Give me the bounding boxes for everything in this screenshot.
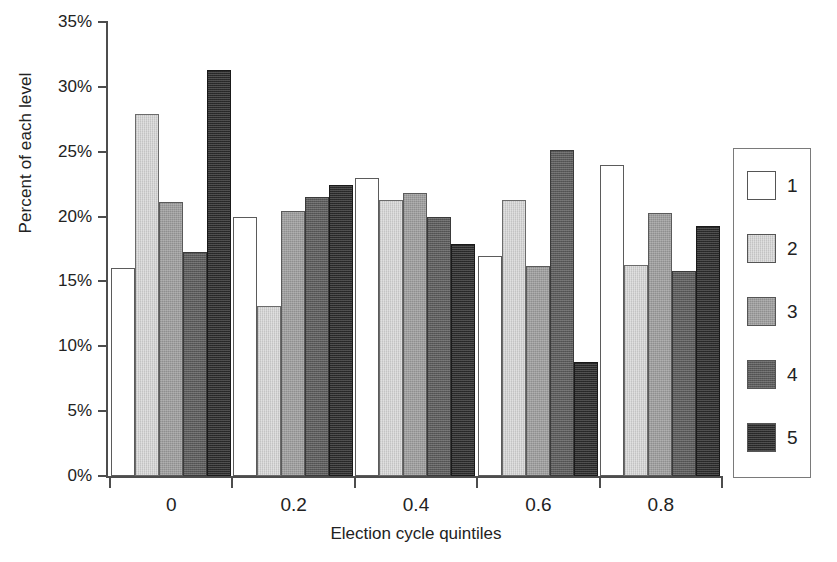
- legend-label-2: 2: [787, 239, 798, 258]
- bar-series-2-cat-0.8: [624, 265, 648, 476]
- x-tick-label: 0.6: [478, 494, 598, 516]
- y-tick-label: 5%: [26, 402, 92, 419]
- y-tick-label: 30%: [26, 78, 92, 95]
- x-tick-label: 0.2: [234, 494, 354, 516]
- bar-series-2-cat-0.4: [379, 200, 403, 476]
- y-tick: [98, 216, 108, 218]
- legend: 12345: [733, 148, 811, 478]
- bar-series-5-cat-0.8: [696, 226, 720, 476]
- bar-series-3-cat-0.8: [648, 213, 672, 476]
- y-tick: [98, 86, 108, 88]
- legend-label-1: 1: [787, 176, 798, 195]
- y-tick-label: 0%: [26, 467, 92, 484]
- bar-series-1-cat-0.6: [478, 256, 502, 477]
- legend-label-3: 3: [787, 302, 798, 321]
- bar-series-5-cat-0.6: [574, 362, 598, 476]
- x-tick: [109, 477, 111, 488]
- bar-series-5-cat-0.2: [329, 185, 353, 476]
- legend-item-5[interactable]: 5: [747, 422, 809, 452]
- legend-label-5: 5: [787, 428, 798, 447]
- x-tick-label: 0.4: [356, 494, 476, 516]
- y-tick-label: 35%: [26, 13, 92, 30]
- x-tick: [476, 477, 478, 488]
- legend-swatch-2: [747, 234, 776, 263]
- bar-series-4-cat-0.6: [550, 150, 574, 476]
- y-tick-label: 10%: [26, 337, 92, 354]
- legend-swatch-4: [747, 360, 776, 389]
- x-tick: [231, 477, 233, 488]
- x-tick: [354, 477, 356, 488]
- bar-series-1-cat-0: [111, 268, 135, 476]
- bar-series-2-cat-0.2: [257, 306, 281, 476]
- x-axis-line: [106, 476, 723, 478]
- y-tick-label: 15%: [26, 272, 92, 289]
- x-tick-label: 0: [111, 494, 231, 516]
- plot-area: 0%5%10%15%20%25%30%35% 00.20.40.60.8: [110, 22, 722, 476]
- bar-series-2-cat-0: [135, 114, 159, 476]
- bar-series-5-cat-0.4: [451, 244, 475, 476]
- legend-item-1[interactable]: 1: [747, 170, 809, 200]
- x-tick: [599, 477, 601, 488]
- y-tick: [98, 345, 108, 347]
- y-tick: [98, 280, 108, 282]
- bar-series-5-cat-0: [207, 70, 231, 476]
- bar-series-1-cat-0.2: [233, 217, 257, 476]
- y-axis-line: [106, 22, 108, 477]
- y-tick: [98, 21, 108, 23]
- x-tick: [721, 477, 723, 488]
- bar-series-4-cat-0.4: [427, 217, 451, 476]
- y-tick: [98, 475, 108, 477]
- y-tick: [98, 151, 108, 153]
- legend-item-3[interactable]: 3: [747, 296, 809, 326]
- bar-series-3-cat-0.2: [281, 211, 305, 476]
- legend-swatch-5: [747, 423, 776, 452]
- bar-series-3-cat-0: [159, 202, 183, 476]
- y-tick: [98, 410, 108, 412]
- bar-series-1-cat-0.4: [355, 178, 379, 476]
- bar-series-3-cat-0.6: [526, 266, 550, 476]
- x-axis-title: Election cycle quintiles: [110, 524, 722, 544]
- y-tick-label: 20%: [26, 208, 92, 225]
- bar-series-4-cat-0.8: [672, 271, 696, 476]
- y-tick-label: 25%: [26, 143, 92, 160]
- legend-item-2[interactable]: 2: [747, 233, 809, 263]
- legend-swatch-3: [747, 297, 776, 326]
- bar-series-4-cat-0: [183, 252, 207, 476]
- bar-series-4-cat-0.2: [305, 197, 329, 476]
- bar-series-2-cat-0.6: [502, 200, 526, 476]
- bar-series-1-cat-0.8: [600, 165, 624, 476]
- x-tick-label: 0.8: [601, 494, 721, 516]
- legend-label-4: 4: [787, 365, 798, 384]
- bar-series-3-cat-0.4: [403, 193, 427, 476]
- legend-item-4[interactable]: 4: [747, 359, 809, 389]
- bar-chart: Percent of each level 0%5%10%15%20%25%30…: [0, 0, 837, 562]
- legend-swatch-1: [747, 171, 776, 200]
